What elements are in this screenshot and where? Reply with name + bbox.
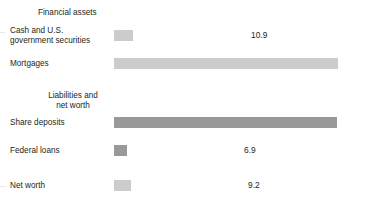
- scan-artifact-upper-left: [0, 32, 5, 33]
- bar-federal-loans: [114, 145, 127, 156]
- row-label-share-deposits: Share deposits: [10, 118, 112, 128]
- section-heading-liabilities-and-net-worth: Liabilities and net worth: [30, 91, 116, 111]
- scan-artifact-lower-left: [0, 186, 6, 187]
- bar-cash: [114, 30, 133, 41]
- bar-chart: Financial assets Cash and U.S. governmen…: [0, 0, 377, 212]
- chart-row-net-worth: Net worth 9.2: [0, 180, 377, 198]
- section-heading-financial-assets: Financial assets: [38, 8, 97, 18]
- row-label-cash: Cash and U.S. government securities: [10, 26, 112, 46]
- chart-row-federal-loans: Federal loans 6.9: [0, 145, 377, 163]
- chart-row-share-deposits: Share deposits 113.9: [0, 117, 377, 135]
- bar-net-worth: [114, 180, 131, 191]
- bar-mortgages: [114, 58, 338, 69]
- bar-value-net-worth: 9.2: [248, 180, 260, 191]
- chart-row-mortgages: Mortgages 114.1: [0, 58, 377, 76]
- row-label-mortgages: Mortgages: [10, 59, 112, 69]
- row-label-federal-loans: Federal loans: [10, 146, 112, 156]
- bar-value-cash: 10.9: [251, 30, 267, 41]
- row-label-net-worth: Net worth: [10, 181, 112, 191]
- bar-share-deposits: [114, 117, 337, 128]
- bar-value-federal-loans: 6.9: [244, 145, 256, 156]
- chart-row-cash: Cash and U.S. government securities 10.9: [0, 26, 377, 44]
